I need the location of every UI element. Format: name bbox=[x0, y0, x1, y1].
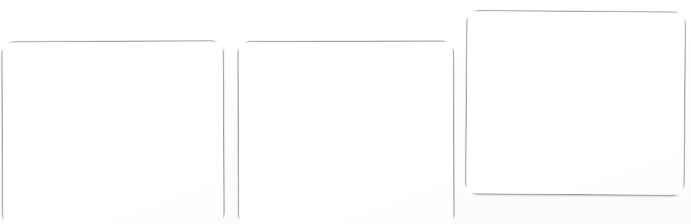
card-2[interactable] bbox=[238, 41, 455, 224]
card-1[interactable] bbox=[2, 41, 225, 224]
card-1-face bbox=[3, 42, 224, 224]
card-3-face bbox=[466, 11, 684, 195]
card-2-face bbox=[239, 42, 454, 224]
card-canvas bbox=[0, 0, 691, 224]
card-3[interactable] bbox=[465, 10, 685, 196]
